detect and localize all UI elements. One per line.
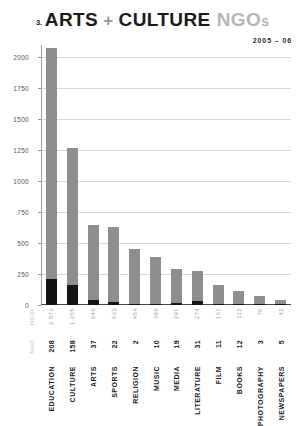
legend-column: NGOs NGO: [26, 306, 40, 418]
bar-segment-ngo: [108, 302, 119, 305]
bar-segment-ngo: [171, 303, 182, 305]
category-label: RELIGION: [131, 366, 138, 404]
x-label-group: 16111FILM: [213, 306, 224, 418]
y-tick-label: 750: [0, 209, 29, 216]
bar-segment-ngo: [67, 285, 78, 305]
x-label-group: 64637ARTS: [88, 306, 99, 418]
bar-column: [88, 225, 99, 305]
title-word-arts: ARTS: [45, 10, 98, 29]
page-title: 3. ARTS + CULTURE NGOs: [36, 10, 294, 29]
x-label-group: 29119MEDIA: [171, 306, 182, 418]
value-label-total: 2 073: [48, 308, 54, 325]
y-tick-label: 1000: [0, 178, 29, 185]
bar-segment-ngo: [88, 300, 99, 305]
value-label-ngo: 37: [90, 340, 97, 348]
category-label: EDUCATION: [48, 366, 55, 412]
value-label-ngo: 31: [194, 340, 201, 348]
bar-segment-ngo: [254, 304, 265, 305]
title-ngo-text: NGO: [217, 9, 261, 30]
category-label: LITERATURE: [194, 366, 201, 415]
bar-segment-total: [67, 148, 78, 305]
value-label-total: 386: [153, 308, 159, 319]
bar-column: [67, 148, 78, 305]
bar-column: [192, 271, 203, 305]
category-label: FILM: [215, 366, 222, 384]
subtitle-year-range: 2005 – 06: [253, 37, 292, 44]
value-label-ngo: 22: [110, 340, 117, 348]
value-label-ngo: 19: [173, 340, 180, 348]
category-label: PHOTOGRAPHY: [256, 366, 263, 426]
bar-column: [254, 296, 265, 305]
x-label-group: 703PHOTOGRAPHY: [254, 306, 265, 418]
bar-column: [171, 269, 182, 305]
bar-column: [275, 300, 286, 305]
category-label: CULTURE: [69, 366, 76, 402]
x-label-group: 27431LITERATURE: [192, 306, 203, 418]
bar-segment-ngo: [150, 304, 161, 305]
value-label-total: 274: [194, 308, 200, 319]
bar-column: [213, 285, 224, 305]
title-plus-symbol: +: [103, 12, 113, 29]
y-tick-label: 250: [0, 271, 29, 278]
value-label-total: 42: [278, 308, 284, 315]
bar-column: [233, 291, 244, 305]
bar-segment-total: [88, 225, 99, 305]
category-label: SPORTS: [110, 366, 117, 398]
y-tick-label: 1750: [0, 85, 29, 92]
bar-column: [129, 249, 140, 305]
bar-segment-total: [192, 271, 203, 305]
value-label-ngo: 158: [69, 340, 76, 353]
category-label: MEDIA: [173, 366, 180, 391]
value-label-ngo: 3: [256, 340, 263, 344]
title-word-culture: CULTURE: [119, 10, 211, 29]
bar-segment-total: [108, 227, 119, 305]
poster-header: 3. ARTS + CULTURE NGOs 2005 – 06: [0, 8, 298, 48]
bar-segment-total: [150, 257, 161, 305]
bar-segment-ngo: [129, 304, 140, 305]
value-label-ngo: 10: [152, 340, 159, 348]
value-label-total: 633: [111, 308, 117, 319]
category-label: NEWSPAPERS: [277, 366, 284, 420]
value-label-total: 454: [132, 308, 138, 319]
plot-area: 025050075010001250150017502000: [41, 45, 291, 305]
x-axis-labels: 2 073208EDUCATION1 265158CULTURE64637ART…: [41, 306, 291, 418]
bar-series-layer: [41, 45, 291, 305]
value-label-ngo: 12: [235, 340, 242, 348]
value-label-total: 70: [257, 308, 263, 315]
y-tick-label: 2000: [0, 54, 29, 61]
value-label-ngo: 208: [48, 340, 55, 353]
x-label-group: 4542RELIGION: [129, 306, 140, 418]
bar-column: [46, 48, 57, 305]
bar-segment-ngo: [275, 304, 286, 305]
value-label-total: 646: [90, 308, 96, 319]
x-label-group: 11212BOOKS: [233, 306, 244, 418]
bar-segment-ngo: [46, 279, 57, 305]
bar-segment-total: [213, 285, 224, 305]
bar-segment-total: [46, 48, 57, 305]
category-label: BOOKS: [235, 366, 242, 394]
bar-segment-ngo: [233, 304, 244, 305]
bar-column: [108, 227, 119, 305]
bar-column: [150, 257, 161, 305]
value-label-total: 291: [173, 308, 179, 319]
bar-segment-total: [171, 269, 182, 305]
title-ngo-suffix: s: [261, 13, 269, 29]
legend-total-header: NGOs: [30, 308, 36, 325]
value-label-ngo: 2: [131, 340, 138, 344]
section-number: 3.: [36, 18, 42, 27]
value-label-total: 1 265: [69, 308, 75, 325]
bar-segment-total: [129, 249, 140, 305]
category-label: ARTS: [90, 366, 97, 387]
value-label-total: 112: [236, 308, 242, 319]
bar-segment-ngo: [213, 304, 224, 305]
legend-ngo-header: NGO: [30, 340, 36, 354]
y-tick-label: 500: [0, 240, 29, 247]
y-tick-label: 0: [0, 302, 29, 309]
bar-segment-ngo: [192, 301, 203, 305]
x-label-group: 425NEWSPAPERS: [275, 306, 286, 418]
category-label: MUSIC: [152, 366, 159, 391]
value-label-ngo: 5: [277, 340, 284, 344]
title-word-ngos: NGOs: [217, 10, 270, 29]
y-tick-label: 1500: [0, 116, 29, 123]
